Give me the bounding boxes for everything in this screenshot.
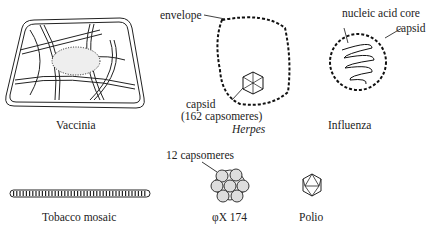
herpes-label: Herpes [232,124,265,136]
tobacco-mosaic-drawing [10,190,150,197]
herpes-drawing [204,15,289,105]
phix174-capsomeres-label: 12 capsomeres [166,150,234,162]
herpes-capsomeres-label: (162 capsomeres) [181,111,262,123]
vaccinia-label: Vaccinia [56,120,96,132]
phix174-label: φX 174 [212,212,247,224]
influenza-drawing [330,28,402,90]
herpes-capsid-label: capsid [186,99,215,111]
herpes-envelope-label: envelope [160,10,202,22]
phix174-drawing [202,162,249,202]
polio-drawing [303,174,321,196]
tobacco-mosaic-label: Tobacco mosaic [42,212,116,224]
influenza-label: Influenza [328,120,371,132]
vaccinia-drawing [6,18,145,108]
influenza-capsid-label: capsid [396,23,425,35]
influenza-core-label: nucleic acid core [342,8,420,20]
polio-label: Polio [299,212,323,224]
